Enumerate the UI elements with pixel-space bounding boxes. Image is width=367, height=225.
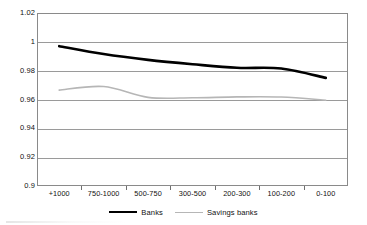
legend-swatch-icon [175,212,203,213]
legend-entry: Savings banks [175,208,258,217]
y-tick-label: 0.94 [1,124,35,132]
legend-label: Savings banks [207,208,258,217]
legend-entry: Banks [109,208,163,217]
series-line-savings-banks [59,86,326,100]
y-tick-label: 1 [1,38,35,46]
y-axis: 1.0210.980.960.940.920.9 [0,0,35,225]
x-axis: +1000750-1000500-750300-500200-300100-20… [37,189,348,203]
x-tick-label: 200-300 [223,189,250,198]
x-tick-label: 100-200 [268,189,295,198]
x-tick-label: 300-500 [179,189,206,198]
scan-artifact [6,221,126,223]
legend-label: Banks [141,208,163,217]
legend-swatch-icon [109,211,137,213]
x-tick-label: 0-100 [316,189,335,198]
series-layer [37,13,348,186]
x-tick-label: +1000 [49,189,70,198]
y-tick-label: 0.98 [1,67,35,75]
y-tick-label: 0.92 [1,153,35,161]
y-tick-label: 1.02 [1,9,35,17]
x-tick-label: 750-1000 [88,189,120,198]
legend: BanksSavings banks [0,205,367,219]
line-chart: 1.0210.980.960.940.920.9 +1000750-100050… [0,0,367,225]
x-tick-label: 500-750 [134,189,161,198]
y-tick-label: 0.9 [1,182,35,190]
y-tick-label: 0.96 [1,96,35,104]
series-line-banks [59,46,326,78]
